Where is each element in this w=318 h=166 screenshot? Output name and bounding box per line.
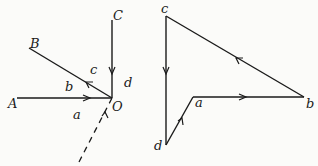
dashed-resultant-line [79,98,112,162]
label-C: C [113,8,123,23]
label-segment-a: a [73,107,81,122]
vector-diagram: C B A O c b d a c b a d [0,0,318,166]
label-A: A [7,96,17,111]
label-B: B [29,36,40,51]
line-bc [166,16,304,97]
label-O: O [112,99,123,114]
label-d: d [154,138,162,153]
force-polygon: c b a d [154,1,314,153]
arrow-up-icon [102,112,108,118]
label-segment-c: c [90,62,98,77]
space-diagram: C B A O c b d a [7,8,132,162]
line-da [166,97,193,145]
label-b: b [306,96,314,111]
label-segment-b: b [65,79,73,94]
label-c: c [161,1,169,16]
label-a: a [195,95,203,110]
label-segment-d: d [124,75,132,90]
